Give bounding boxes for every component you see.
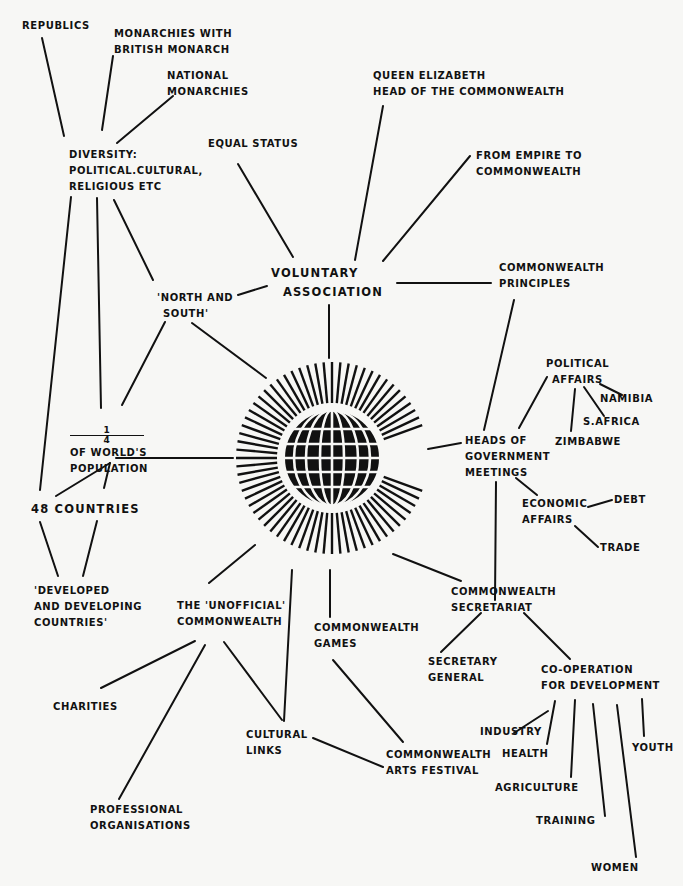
node-trade: TRADE	[600, 540, 640, 556]
one-quarter-fraction: 14	[70, 426, 144, 445]
node-republics: REPUBLICS	[22, 18, 90, 34]
node-48-countries: 48 COUNTRIES	[31, 500, 140, 519]
node-from-empire: FROM EMPIRE TO COMMONWEALTH	[476, 148, 582, 180]
node-health: HEALTH	[502, 746, 548, 762]
node-charities: CHARITIES	[53, 699, 118, 715]
node-diversity: DIVERSITY: POLITICAL.CULTURAL, RELIGIOUS…	[69, 147, 203, 195]
node-debt: DEBT	[614, 492, 646, 508]
node-world-population: 14OF WORLD'S POPULATION	[70, 426, 148, 477]
node-namibia: NAMIBIA	[600, 391, 653, 407]
node-women: WOMEN	[591, 860, 639, 876]
node-economic-affairs: ECONOMIC AFFAIRS	[522, 496, 587, 528]
node-unofficial-commonwealth: THE 'UNOFFICIAL' COMMONWEALTH	[177, 598, 286, 630]
node-commonwealth-games: COMMONWEALTH GAMES	[314, 620, 419, 652]
node-equal-status: EQUAL STATUS	[208, 136, 298, 152]
node-agriculture: AGRICULTURE	[495, 780, 579, 796]
node-zimbabwe: ZIMBABWE	[555, 434, 621, 450]
node-industry: INDUSTRY	[480, 724, 542, 740]
node-developed-developing: 'DEVELOPED AND DEVELOPING COUNTRIES'	[34, 583, 142, 631]
node-political-affairs: POLITICAL AFFAIRS	[546, 356, 609, 388]
node-north-south: 'NORTH AND SOUTH'	[157, 290, 233, 322]
node-queen-elizabeth: QUEEN ELIZABETH HEAD OF THE COMMONWEALTH	[373, 68, 565, 100]
node-arts-festival: COMMONWEALTH ARTS FESTIVAL	[386, 747, 491, 779]
commonwealth-globe-emblem	[236, 362, 422, 554]
node-cooperation-development: CO-OPERATION FOR DEVELOPMENT	[541, 662, 660, 694]
node-training: TRAINING	[536, 813, 595, 829]
node-commonwealth-principles: COMMONWEALTH PRINCIPLES	[499, 260, 604, 292]
node-heads-of-government: HEADS OF GOVERNMENT MEETINGS	[465, 433, 550, 481]
node-national-monarchies: NATIONAL MONARCHIES	[167, 68, 249, 100]
node-secretary-general: SECRETARY GENERAL	[428, 654, 497, 686]
node-youth: YOUTH	[632, 740, 674, 756]
node-professional-organisations: PROFESSIONAL ORGANISATIONS	[90, 802, 191, 834]
node-commonwealth-secretariat: COMMONWEALTH SECRETARIAT	[451, 584, 556, 616]
node-cultural-links: CULTURAL LINKS	[246, 727, 308, 759]
node-monarchies-british: MONARCHIES WITH BRITISH MONARCH	[114, 26, 232, 58]
node-s-africa: S.AFRICA	[583, 414, 640, 430]
node-voluntary-association: VOLUNTARY ASSOCIATION	[271, 264, 383, 302]
